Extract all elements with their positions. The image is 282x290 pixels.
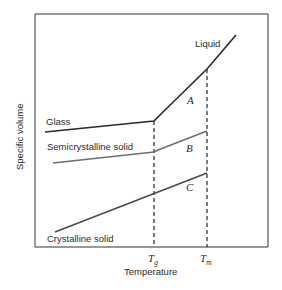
tg-tick-label: Tg <box>148 252 158 267</box>
x-axis-label: Temperature <box>124 266 177 277</box>
glass-label: Glass <box>46 116 71 127</box>
crystalline-label: Crystalline solid <box>47 233 114 244</box>
region-a-label: A <box>186 94 194 106</box>
crystalline-curve <box>55 173 207 232</box>
y-axis-label: Specific volume <box>14 103 25 170</box>
tm-tick-label: Tm <box>200 252 212 267</box>
semicrystalline-label: Semicrystalline solid <box>47 141 133 152</box>
region-c-label: C <box>186 181 194 193</box>
region-b-label: B <box>186 142 193 154</box>
liquid-label: Liquid <box>195 38 220 49</box>
specific-volume-diagram: Liquid Glass Semicrystalline solid Cryst… <box>0 0 282 290</box>
